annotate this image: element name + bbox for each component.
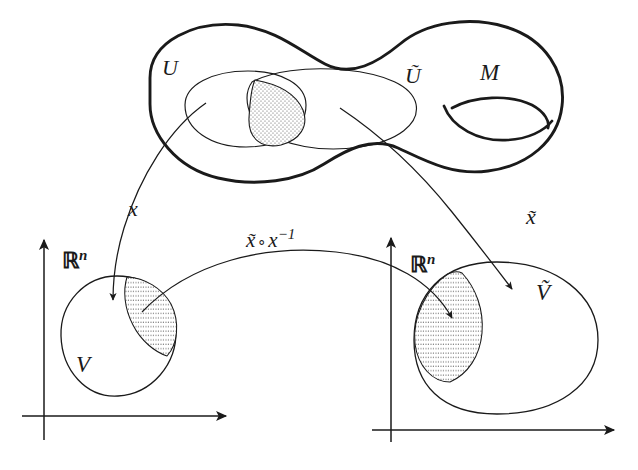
region-Vtilde-overlap (415, 272, 483, 382)
manifold-handle-lower-arc (444, 106, 552, 140)
label-U: U (162, 55, 180, 80)
manifold-chart-diagram: U Ũ M ℝn V ℝn (0, 0, 638, 470)
chart-map-x-arrow (113, 103, 206, 300)
left-chart-axis-label: ℝn (62, 247, 87, 273)
manifold-outline (150, 22, 563, 183)
chart-map-xtilde-label: x̃ (525, 204, 536, 229)
transition-map-label-circ: ∘ (257, 234, 266, 250)
figure-canvas: U Ũ M ℝn V ℝn (0, 0, 638, 470)
right-chart-axis-label-R: ℝ (410, 252, 428, 277)
left-chart-axis-label-exponent: n (79, 247, 87, 263)
transition-map-label: x̃∘x−1 (245, 226, 295, 252)
manifold-handle-upper-arc (452, 98, 548, 128)
label-V: V (76, 352, 93, 377)
right-chart-axis-label: ℝn (410, 251, 435, 277)
transition-map-label-head: x̃ (245, 228, 256, 252)
label-Utilde: Ũ (405, 63, 423, 88)
manifold-overlap-region (249, 80, 305, 146)
left-chart-group: ℝn V (22, 240, 226, 440)
transition-map-arrow (142, 250, 452, 318)
right-chart-axis-label-exponent: n (427, 251, 435, 267)
right-chart-group: ℝn Ṽ (372, 238, 614, 442)
manifold-group: U Ũ M (150, 22, 563, 183)
label-M: M (479, 60, 501, 85)
left-chart-axis-label-R: ℝ (62, 248, 80, 273)
transition-map-label-exponent: −1 (278, 226, 296, 242)
label-Vtilde: Ṽ (536, 279, 553, 305)
chart-map-x-label: x (127, 196, 138, 221)
